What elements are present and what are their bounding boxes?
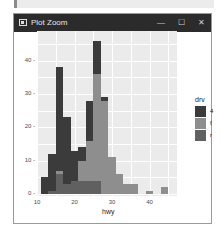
maximize-button[interactable]: ☐ [174,16,188,30]
legend-key-4 [195,106,206,117]
grid-line [150,31,151,196]
legend-key-f [195,118,206,129]
legend-label-4: 4 [210,108,213,114]
background-window-strip [14,0,214,8]
bar-drv-4 [101,97,109,100]
bar-drv-4 [93,41,101,74]
grid-line [37,194,177,195]
bar-drv-4 [41,177,49,194]
bar-drv-f [123,184,131,194]
x-tick-label: 30 [105,199,119,205]
bar-drv-r [48,191,56,194]
plot-panel [37,31,177,196]
x-tick-label: 20 [68,199,82,205]
close-button[interactable]: ✕ [194,16,208,30]
bar-drv-f [131,184,139,194]
legend-label-r: r [210,132,212,138]
y-tick-label: 30 - [21,90,35,96]
bar-drv-f [56,171,64,174]
grid-line [37,31,38,196]
bar-drv-4 [86,101,94,141]
minimize-button[interactable]: — [154,16,168,30]
bar-drv-4 [63,117,71,184]
app-icon [19,19,27,26]
grid-line [37,44,177,45]
title-bar[interactable]: Plot Zoom — ☐ ✕ [14,14,211,32]
bar-drv-f [161,187,169,194]
grid-line [37,61,177,62]
x-tick-label: 10 [30,199,44,205]
bar-drv-r [93,181,101,194]
bar-drv-r [71,181,79,194]
bar-drv-f [93,74,101,181]
bar-drv-4 [48,154,56,191]
bar-drv-4 [78,147,86,160]
bar-drv-f [146,191,154,194]
y-tick-label: 40 - [21,57,35,63]
background-window-marker [14,0,17,8]
y-tick-label: 20 - [21,123,35,129]
legend-label-f: f [210,120,212,126]
bar-drv-4 [56,67,64,170]
window-title: Plot Zoom [31,17,67,28]
legend-title: drv [195,96,205,103]
bar-drv-f [108,157,116,194]
y-tick-label: 10 - [21,157,35,163]
legend-key-r [195,130,206,141]
bar-drv-f [86,141,94,181]
bar-drv-f [78,161,86,181]
x-tick-label: 40 [143,199,157,205]
grid-line [131,31,132,196]
bar-drv-r [63,184,71,194]
bar-drv-f [101,101,109,194]
x-axis-label: hwy [102,208,114,215]
bar-drv-f [116,174,124,194]
bar-drv-r [78,181,86,194]
grid-line [168,31,169,196]
y-tick-label: 0 - [21,190,35,196]
bar-drv-4 [71,151,79,181]
bar-drv-r [86,181,94,194]
bar-drv-r [56,174,64,194]
